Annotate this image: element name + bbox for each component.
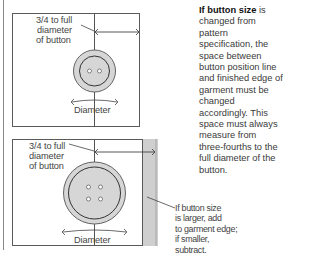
top-diameter-label: Diameter	[74, 105, 110, 115]
label-line: of button	[36, 35, 72, 45]
note-line: If button size	[175, 203, 275, 213]
label-line: 3/4 to full	[29, 141, 65, 151]
note-line: is larger, add	[175, 213, 275, 223]
label-line: 3/4 to full	[36, 15, 72, 25]
bottom-spacing-label: 3/4 to full diameter of button	[29, 141, 65, 171]
label-line: diameter	[29, 151, 65, 161]
label-line: diameter	[36, 25, 72, 35]
explanation-lead: If button size	[199, 5, 256, 15]
explanation-text: If button size is changed from pattern s…	[199, 5, 283, 176]
label-line: of button	[29, 161, 65, 171]
bottom-diameter-label: Diameter	[74, 235, 110, 245]
edge-adjust-note: If button size is larger, add to garment…	[175, 203, 275, 255]
note-line: subtract.	[175, 245, 275, 255]
note-line: if smaller,	[175, 234, 275, 244]
top-spacing-label: 3/4 to full diameter of button	[36, 15, 72, 45]
note-line: to garment edge;	[175, 224, 275, 234]
explanation-body: is changed from pattern specification, t…	[199, 5, 283, 175]
